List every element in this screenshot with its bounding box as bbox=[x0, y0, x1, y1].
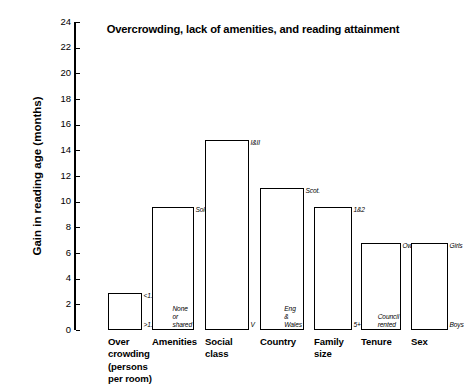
x-axis-category-label: Country bbox=[260, 336, 296, 348]
bar-bottom-annotation: 5+ bbox=[354, 321, 361, 329]
y-axis-label: Gain in reading age (months) bbox=[31, 46, 43, 306]
bar: I&IIV bbox=[205, 140, 249, 330]
y-axis-tick-mark bbox=[76, 125, 80, 126]
y-axis-tick-mark bbox=[76, 48, 80, 49]
y-axis-tick-mark bbox=[76, 202, 80, 203]
x-axis-category-label: Family size bbox=[314, 336, 344, 361]
bar: <1.0>1.5 bbox=[108, 293, 142, 330]
bar: SoleNone or shared bbox=[152, 207, 194, 330]
x-axis-category-label: Sex bbox=[411, 336, 428, 348]
bar-top-annotation: Scot. bbox=[306, 187, 321, 195]
y-axis-tick-label: 24 bbox=[60, 16, 71, 27]
y-axis-tick-label: 4 bbox=[66, 272, 71, 283]
y-axis-tick-mark bbox=[76, 227, 80, 228]
y-axis-tick-label: 10 bbox=[60, 195, 71, 206]
bar-top-annotation: 1&2 bbox=[354, 206, 365, 214]
y-axis-tick-mark bbox=[76, 99, 80, 100]
bar: GirlsBoys bbox=[411, 243, 448, 330]
y-axis-tick-mark bbox=[76, 253, 80, 254]
y-axis-tick-label: 12 bbox=[60, 170, 71, 181]
bar: OwnedCouncil rented bbox=[361, 243, 401, 330]
y-axis-tick-label: 14 bbox=[60, 144, 71, 155]
y-axis-tick-label: 8 bbox=[66, 221, 71, 232]
y-axis-tick-label: 18 bbox=[60, 93, 71, 104]
bar-bottom-annotation: Boys bbox=[450, 321, 464, 329]
y-axis-tick-mark bbox=[76, 279, 80, 280]
y-axis-tick-label: 16 bbox=[60, 118, 71, 129]
y-axis-tick-label: 2 bbox=[66, 298, 71, 309]
x-axis-category-label: Amenities bbox=[152, 336, 197, 348]
bar-top-annotation: I&II bbox=[251, 139, 261, 147]
bar-bottom-annotation: Eng & Wales bbox=[284, 305, 302, 328]
y-axis-tick-label: 0 bbox=[66, 324, 71, 335]
bar-bottom-annotation: V bbox=[251, 321, 255, 329]
plot-area: 024681012141618202224 <1.0>1.5SoleNone o… bbox=[74, 22, 419, 330]
y-axis-tick-mark bbox=[76, 150, 80, 151]
y-axis-tick-mark bbox=[76, 330, 80, 331]
y-axis-tick-mark bbox=[76, 304, 80, 305]
y-axis-tick-mark bbox=[76, 176, 80, 177]
bar-top-annotation: Girls bbox=[450, 242, 463, 250]
x-axis-category-label: Tenure bbox=[361, 336, 392, 348]
bar: 1&25+ bbox=[314, 207, 352, 330]
x-axis-category-label: Over crowding (persons per room) bbox=[108, 336, 152, 385]
x-axis-category-label: Social class bbox=[205, 336, 233, 361]
bar-bottom-annotation: None or shared bbox=[172, 305, 192, 328]
bar-bottom-annotation: Council rented bbox=[378, 313, 399, 329]
bar: Scot.Eng & Wales bbox=[260, 188, 304, 330]
y-axis-tick-label: 22 bbox=[60, 41, 71, 52]
y-axis-tick-mark bbox=[76, 73, 80, 74]
y-axis-tick-mark bbox=[76, 22, 80, 23]
y-axis-tick-label: 20 bbox=[60, 67, 71, 78]
y-axis-tick-label: 6 bbox=[66, 247, 71, 258]
